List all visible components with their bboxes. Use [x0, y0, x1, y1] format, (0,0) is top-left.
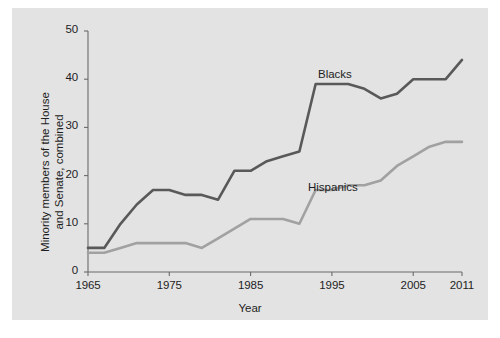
y-tick-label: 50 — [52, 23, 78, 35]
data-series — [88, 60, 462, 253]
chart-panel: Minority members of the House and Senate… — [12, 8, 488, 320]
x-tick-label: 2011 — [437, 279, 487, 291]
chart-figure: Minority members of the House and Senate… — [0, 0, 500, 338]
x-axis-label: Year — [0, 302, 500, 314]
y-tick-label: 30 — [52, 119, 78, 131]
x-tick-label: 1965 — [63, 279, 113, 291]
y-tick-label: 0 — [52, 264, 78, 276]
y-tick-label: 10 — [52, 216, 78, 228]
x-tick-label: 1985 — [226, 279, 276, 291]
y-tick-label: 20 — [52, 168, 78, 180]
y-axis-label-line-1: Minority members of the House — [39, 92, 51, 252]
y-tick-label: 40 — [52, 71, 78, 83]
series-label-hispanics: Hispanics — [308, 181, 358, 193]
x-tick-label: 2005 — [388, 279, 438, 291]
x-tick-label: 1995 — [307, 279, 357, 291]
series-label-blacks: Blacks — [318, 68, 352, 80]
axes — [84, 31, 462, 276]
chart-plot-area — [12, 8, 488, 320]
x-tick-label: 1975 — [144, 279, 194, 291]
